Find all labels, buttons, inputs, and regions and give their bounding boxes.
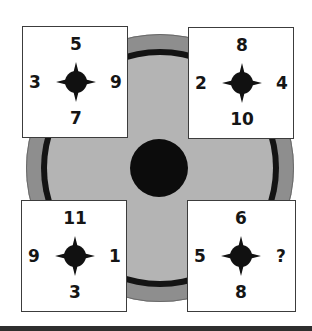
center-dot <box>130 139 188 197</box>
card-bottom-right-top-number: 6 <box>226 210 256 227</box>
card-top-left-right-number: 9 <box>101 74 131 91</box>
card-top-right-bottom-number: 10 <box>227 111 257 128</box>
card-bottom-right-left-number: 5 <box>185 248 215 265</box>
card-top-left-left-number: 3 <box>20 74 50 91</box>
compass-star-icon <box>55 236 95 276</box>
card-top-left: 5 3 9 7 <box>22 26 128 138</box>
card-bottom-left: 11 9 1 3 <box>21 200 127 312</box>
card-top-left-bottom-number: 7 <box>61 110 91 127</box>
card-top-right-right-number: 4 <box>267 75 297 92</box>
card-bottom-right: 6 5 ? 8 <box>187 200 296 312</box>
card-top-left-top-number: 5 <box>61 36 91 53</box>
puzzle-stage: 5 3 9 7 8 2 4 10 11 9 1 3 6 5 ? 8 <box>0 0 312 331</box>
card-bottom-left-right-number: 1 <box>100 248 130 265</box>
card-bottom-left-bottom-number: 3 <box>60 284 90 301</box>
card-top-right-left-number: 2 <box>186 75 216 92</box>
card-top-right-top-number: 8 <box>227 37 257 54</box>
bottom-bar <box>0 326 312 331</box>
card-bottom-right-missing-number: ? <box>266 248 296 265</box>
card-bottom-right-bottom-number: 8 <box>226 284 256 301</box>
card-bottom-left-top-number: 11 <box>60 210 90 227</box>
card-top-right: 8 2 4 10 <box>188 27 294 139</box>
card-bottom-left-left-number: 9 <box>19 248 49 265</box>
compass-star-icon <box>221 236 261 276</box>
compass-star-icon <box>222 63 262 103</box>
compass-star-icon <box>56 62 96 102</box>
